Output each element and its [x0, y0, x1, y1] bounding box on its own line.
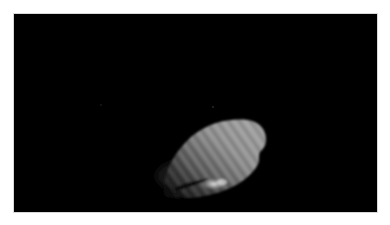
faint-point — [100, 104, 102, 106]
image-canvas: Grayscale image of an elongated, striate… — [0, 0, 390, 225]
illuminated-body — [154, 109, 274, 204]
faint-point — [212, 106, 214, 108]
natural-image — [14, 14, 377, 212]
image-frame: Grayscale image of an elongated, striate… — [14, 14, 377, 212]
